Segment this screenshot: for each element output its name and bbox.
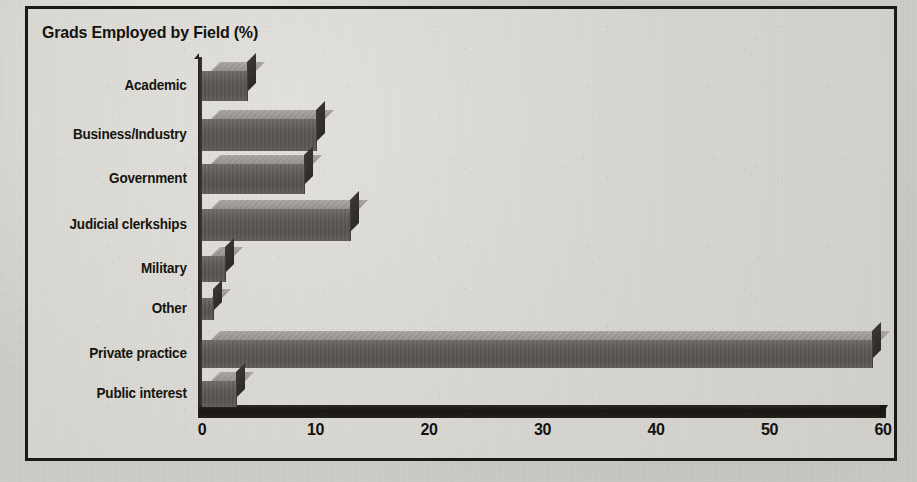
bar-front-face [202,298,214,320]
bar-judicial-clerkships [202,209,350,241]
x-tick-20: 20 [399,421,459,439]
x-tick-30: 30 [513,421,573,439]
x-axis-line [198,405,886,418]
bar-front-face [202,209,351,241]
x-tick-40: 40 [626,421,686,439]
bar-front-face [202,71,248,101]
bar-side-face [225,238,234,273]
y-axis-cap [194,53,199,59]
bar-other [202,298,213,320]
bar-side-face [247,53,256,92]
x-tick-50: 50 [740,421,800,439]
category-label-1: Business/Industry [0,126,196,142]
bar-front-face [202,256,226,282]
bar-private-practice [202,340,872,368]
bar-side-face [213,280,222,311]
bar-academic [202,71,247,101]
bar-military [202,256,225,282]
bar-side-face [236,363,245,398]
plot-area: AcademicBusiness/IndustryGovernmentJudic… [28,9,894,458]
category-label-4: Military [0,260,196,276]
bar-side-face [350,191,359,232]
bar-side-face [872,322,881,359]
chart-frame: Grads Employed by Field (%) AcademicBusi… [25,6,897,461]
x-tick-60: 60 [853,421,913,439]
bar-business-industry [202,119,316,151]
category-label-0: Academic [0,77,196,93]
x-tick-10: 10 [286,421,346,439]
bar-side-face [304,146,313,185]
bar-front-face [202,119,317,151]
bar-side-face [316,101,325,142]
bar-front-face [202,340,873,368]
bar-public-interest [202,381,236,407]
category-label-5: Other [0,300,196,316]
category-label-7: Public interest [0,385,196,401]
bar-top-face [211,200,368,209]
category-label-2: Government [0,170,196,186]
bar-top-face [211,62,265,71]
category-label-3: Judicial clerkships [0,216,196,232]
bar-top-face [211,331,890,340]
category-label-6: Private practice [0,345,196,361]
x-axis-cap [880,405,888,418]
x-tick-0: 0 [172,421,232,439]
bar-front-face [202,381,237,407]
bar-government [202,164,304,194]
scanned-page: Grads Employed by Field (%) AcademicBusi… [0,0,917,482]
bar-front-face [202,164,305,194]
bar-top-face [211,372,254,381]
